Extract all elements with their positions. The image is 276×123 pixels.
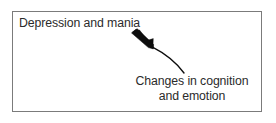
label-changes-line-2: and emotion [131, 89, 253, 104]
label-depression-and-mania: Depression and mania [19, 16, 140, 31]
label-changes-line-1: Changes in cognition [131, 74, 253, 89]
label-changes-in-cognition-and-emotion: Changes in cognition and emotion [131, 74, 253, 103]
figure-root: Depression and mania Changes in cognitio… [0, 0, 276, 123]
